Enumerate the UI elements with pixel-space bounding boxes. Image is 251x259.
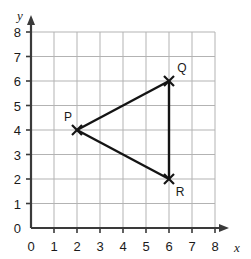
y-tick-label: 6	[14, 74, 21, 89]
x-tick-label: 3	[96, 239, 103, 254]
axes	[26, 15, 229, 233]
x-tick-label: 4	[119, 239, 126, 254]
x-tick-label: 5	[142, 239, 149, 254]
y-tick-label: 5	[14, 99, 21, 114]
coordinate-grid-figure: 8 7 6 5 4 3 2 1 0 0 1 2 3 4 5 6 7 8 y x	[0, 0, 251, 259]
y-axis-label: y	[15, 8, 23, 23]
y-tick-label: 4	[14, 123, 21, 138]
grid-lines	[31, 32, 215, 228]
x-tick-label: 8	[211, 239, 218, 254]
vertex-label-P: P	[64, 110, 72, 124]
y-tick-label: 2	[14, 172, 21, 187]
x-axis-tick-labels: 0 1 2 3 4 5 6 7 8	[27, 239, 218, 254]
x-tick-label: 2	[73, 239, 80, 254]
coordinate-plane-svg: 8 7 6 5 4 3 2 1 0 0 1 2 3 4 5 6 7 8 y x	[0, 0, 251, 259]
vertex-label-Q: Q	[177, 61, 186, 75]
x-tick-label: 6	[165, 239, 172, 254]
x-axis-label: x	[233, 240, 240, 255]
y-tick-label: 8	[14, 25, 21, 40]
y-tick-label: 7	[14, 50, 21, 65]
y-tick-label: 3	[14, 148, 21, 163]
x-tick-label: 1	[50, 239, 57, 254]
vertex-label-R: R	[176, 185, 185, 199]
x-axis-arrowhead-icon	[219, 224, 229, 232]
y-axis-tick-labels: 8 7 6 5 4 3 2 1 0	[14, 25, 21, 236]
y-tick-label: 1	[14, 197, 21, 212]
y-origin-tick-label: 0	[14, 221, 21, 236]
x-tick-label: 7	[188, 239, 195, 254]
y-axis-arrowhead-icon	[27, 15, 35, 25]
x-origin-tick-label: 0	[27, 239, 34, 254]
